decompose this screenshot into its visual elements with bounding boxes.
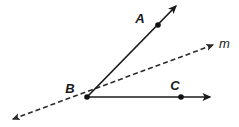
point-a-label: A	[134, 11, 144, 26]
diagram-canvas: A B C m	[0, 0, 239, 127]
point-c-label: C	[170, 78, 180, 93]
point-b-dot	[84, 94, 90, 100]
point-c-dot	[178, 94, 184, 100]
point-a-dot	[155, 22, 161, 28]
line-m-label: m	[219, 36, 230, 51]
line-m	[13, 45, 213, 119]
point-b-label: B	[65, 81, 74, 96]
geometry-diagram: A B C m	[0, 0, 239, 127]
ray-ba	[87, 6, 176, 97]
